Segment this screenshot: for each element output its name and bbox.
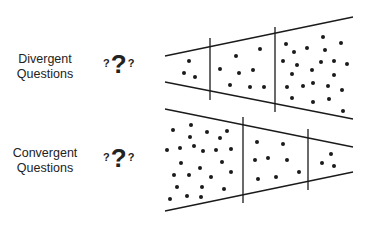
divergent-funnel xyxy=(165,17,353,119)
convergent-funnel xyxy=(165,109,353,211)
convergent-top-edge xyxy=(165,109,353,147)
divergent-bottom-edge xyxy=(165,82,353,119)
convergent-dots xyxy=(165,123,336,201)
funnel-diagram xyxy=(0,0,374,229)
